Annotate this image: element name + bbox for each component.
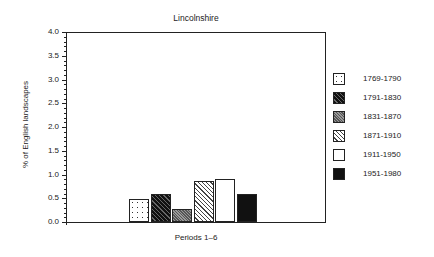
y-tick: [62, 151, 66, 152]
y-minor-tick: [64, 189, 66, 190]
y-minor-tick: [64, 165, 66, 166]
y-tick: [62, 103, 66, 104]
y-minor-tick: [64, 208, 66, 209]
y-minor-tick: [64, 179, 66, 180]
y-tick: [62, 175, 66, 176]
y-minor-tick: [64, 94, 66, 95]
y-minor-tick: [64, 141, 66, 142]
bar-1769-1790: [129, 199, 149, 222]
y-minor-tick: [64, 75, 66, 76]
x-axis-label: Periods 1–6: [66, 233, 326, 242]
legend-swatch-icon: [333, 111, 345, 123]
legend-label: 1911-1950: [363, 150, 401, 159]
x-axis: [66, 222, 326, 223]
y-tick-label: 3.0: [36, 75, 59, 84]
legend-label: 1791-1830: [363, 93, 401, 102]
y-minor-tick: [64, 61, 66, 62]
y-minor-tick: [64, 146, 66, 147]
y-minor-tick: [64, 170, 66, 171]
legend-swatch-icon: [333, 130, 345, 142]
bar-1911-1950: [215, 179, 235, 222]
y-tick-label: 0.0: [36, 217, 59, 226]
y-tick-label: 3.5: [36, 51, 59, 60]
y-tick: [62, 32, 66, 33]
y-minor-tick: [64, 160, 66, 161]
y-minor-tick: [64, 137, 66, 138]
y-tick-label: 2.0: [36, 122, 59, 131]
legend-swatch-icon: [333, 149, 345, 161]
y-minor-tick: [64, 42, 66, 43]
y-minor-tick: [64, 122, 66, 123]
y-minor-tick: [64, 99, 66, 100]
y-tick: [62, 80, 66, 81]
bar-1951-1980: [237, 194, 257, 223]
y-minor-tick: [64, 203, 66, 204]
bar-1791-1830: [151, 194, 171, 223]
y-minor-tick: [64, 118, 66, 119]
legend-label: 1769-1790: [363, 74, 401, 83]
y-minor-tick: [64, 194, 66, 195]
y-axis: [66, 32, 67, 225]
y-tick: [62, 222, 66, 223]
chart-title: Lincolnshire: [66, 13, 326, 23]
y-minor-tick: [64, 46, 66, 47]
legend-label: 1951-1980: [363, 169, 401, 178]
y-minor-tick: [64, 213, 66, 214]
y-tick-label: 4.0: [36, 27, 59, 36]
y-minor-tick: [64, 89, 66, 90]
y-tick-label: 0.5: [36, 193, 59, 202]
y-minor-tick: [64, 37, 66, 38]
y-minor-tick: [64, 51, 66, 52]
y-tick-label: 1.0: [36, 170, 59, 179]
y-minor-tick: [64, 113, 66, 114]
y-minor-tick: [64, 65, 66, 66]
legend-label: 1871-1910: [363, 131, 401, 140]
legend-label: 1831-1870: [363, 112, 401, 121]
legend-swatch-icon: [333, 92, 345, 104]
y-minor-tick: [64, 132, 66, 133]
y-minor-tick: [64, 70, 66, 71]
y-axis-label: % of English landscapes: [21, 70, 30, 180]
y-minor-tick: [64, 184, 66, 185]
bar-1831-1870: [172, 209, 192, 222]
legend-swatch-icon: [333, 73, 345, 85]
y-minor-tick: [64, 217, 66, 218]
y-minor-tick: [64, 84, 66, 85]
y-tick: [62, 198, 66, 199]
y-minor-tick: [64, 108, 66, 109]
y-tick: [62, 56, 66, 57]
y-tick: [62, 127, 66, 128]
y-tick-label: 2.5: [36, 98, 59, 107]
bar-1871-1910: [194, 181, 214, 222]
y-minor-tick: [64, 156, 66, 157]
y-tick-label: 1.5: [36, 146, 59, 155]
legend-swatch-icon: [333, 168, 345, 180]
